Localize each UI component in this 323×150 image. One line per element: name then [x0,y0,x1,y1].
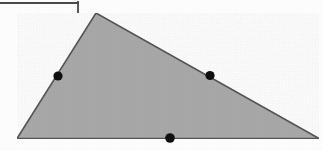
triangle-figure-svg [0,0,323,150]
midpoint-left-side-dot [53,71,62,80]
figure-canvas [0,0,323,150]
midpoint-base-dot [165,133,175,143]
midpoint-hypotenuse-dot [205,71,214,80]
